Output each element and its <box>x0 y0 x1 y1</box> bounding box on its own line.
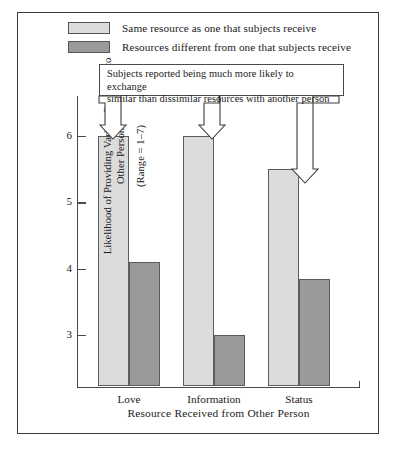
annotation-callout: Subjects reported being much more likely… <box>99 64 344 96</box>
x-axis-line <box>77 387 360 388</box>
x-group-label-information: Information <box>174 393 254 406</box>
bar-love-different <box>129 262 160 387</box>
x-group-label-love: Love <box>89 393 169 406</box>
y-tick-label-6: 6 <box>67 129 73 142</box>
legend-item-same: Same resource as one that subjects recei… <box>68 19 368 36</box>
y-axis-line <box>77 96 78 388</box>
x-axis-title: Resource Received from Other Person <box>77 407 360 419</box>
annotation-line-1: Subjects reported being much more likely… <box>107 68 336 93</box>
x-axis-end-cap <box>359 381 360 388</box>
y-tick-label-5: 5 <box>67 195 73 208</box>
bar-status-same <box>268 169 299 387</box>
bar-status-different <box>299 279 330 387</box>
y-tick-mark-4 <box>78 269 86 270</box>
legend-label-same: Same resource as one that subjects recei… <box>122 22 316 34</box>
x-group-label-status: Status <box>259 393 339 406</box>
bar-information-different <box>214 335 245 387</box>
annotation-line-2: similar than dissimilar resources with a… <box>107 93 336 106</box>
y-tick-label-4: 4 <box>67 262 73 275</box>
y-tick-mark-3 <box>78 335 86 336</box>
y-tick-mark-6 <box>78 136 86 137</box>
y-tick-label-3: 3 <box>67 328 73 341</box>
figure-container: Same resource as one that subjects recei… <box>0 0 396 450</box>
legend-label-different: Resources different from one that subjec… <box>122 41 351 53</box>
legend-swatch-light-icon <box>68 22 110 34</box>
y-tick-mark-5 <box>78 202 86 203</box>
bar-information-same <box>183 136 214 387</box>
